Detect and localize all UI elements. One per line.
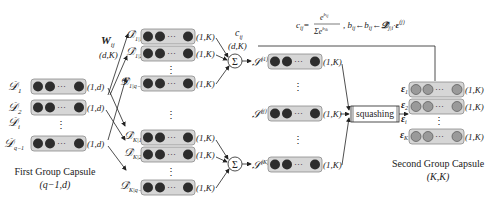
capsule-routing-diagram: 𝒟1 ··· (1,d) 𝒟2 ··· (1,d) 𝒟i ⋮ 𝒟q−1 ··· … bbox=[0, 0, 496, 207]
svg-text:(1,d): (1,d) bbox=[87, 139, 104, 149]
svg-text:···: ··· bbox=[167, 132, 176, 142]
svg-text:⋮: ⋮ bbox=[434, 115, 444, 126]
second-group-capsule: ε1 ··· (1,K) ε2 ··· (1,K) εi ⋮ εK ··· (1… bbox=[392, 82, 485, 183]
weighted-sum-1: 𝒮(1) ··· (1,K) bbox=[252, 54, 342, 69]
first-group-shape: (q−1,d) bbox=[40, 179, 72, 191]
first-group-title: First Group Capsule bbox=[14, 166, 96, 177]
svg-text:𝒟̂K|1: 𝒟̂K|1 bbox=[124, 129, 142, 143]
first-group-row-q-1: 𝒟q−1 ··· (1,d) bbox=[4, 136, 104, 151]
svg-text:⋮: ⋮ bbox=[166, 166, 176, 177]
svg-text:, bij←bij←𝒟̂j|i·ε(j): , bij←bij←𝒟̂j|i·ε(j) bbox=[343, 19, 405, 31]
sigma-icon: Σ bbox=[232, 56, 238, 67]
second-group-row-2: ε2 ··· (1,K) bbox=[401, 99, 484, 114]
prediction-row-k-2: 𝒟̂K|2 ··· (1,K) bbox=[124, 146, 215, 162]
vdots: ⋮ bbox=[56, 119, 66, 130]
svg-text:𝒮(K): 𝒮(K) bbox=[252, 159, 269, 171]
svg-text:···: ··· bbox=[57, 138, 66, 148]
weight-shape: (d,K) bbox=[99, 50, 118, 60]
weighted-sum-k: 𝒮(K) ··· (1,K) bbox=[252, 157, 342, 172]
svg-text:𝒮(1): 𝒮(1) bbox=[252, 56, 268, 68]
first-group-row-1: 𝒟1 ··· (1,d) bbox=[8, 79, 104, 95]
di-label: 𝒟i bbox=[8, 115, 20, 131]
sum-node-bottom: Σ bbox=[216, 140, 251, 188]
first-group-row-2: 𝒟2 ··· (1,d) bbox=[8, 100, 104, 116]
second-group-row-1: ε1 ··· (1,K) bbox=[401, 82, 484, 97]
svg-text:···: ··· bbox=[167, 78, 176, 88]
svg-text:···: ··· bbox=[435, 101, 444, 111]
d1-dim: (1,d) bbox=[87, 82, 104, 92]
weight-label: Wij bbox=[101, 34, 115, 49]
prediction-row-1-1: 𝒟̂1|1 ··· (1,K) bbox=[126, 28, 215, 44]
prediction-cluster-bottom: 𝒟̂K|1 ··· (1,K) 𝒟̂K|2 ··· (1,K) ⋮ 𝒟̂K|q−… bbox=[120, 129, 215, 195]
svg-text:εK: εK bbox=[400, 129, 409, 141]
svg-text:(1,K): (1,K) bbox=[465, 102, 484, 112]
coupling-label: cij bbox=[235, 27, 243, 40]
svg-text:(1,K): (1,K) bbox=[323, 57, 342, 67]
svg-text:···: ··· bbox=[294, 56, 303, 66]
svg-text:(1,K): (1,K) bbox=[465, 132, 484, 142]
svg-text:ε2: ε2 bbox=[401, 99, 408, 111]
svg-text:𝒟q−1: 𝒟q−1 bbox=[4, 136, 24, 151]
svg-text:Σebik: Σebik bbox=[313, 26, 328, 36]
coupling-shape: (d,K) bbox=[228, 41, 247, 51]
second-group-shape: (K,K) bbox=[427, 171, 450, 183]
prediction-row-1-2: 𝒟̂1|2 ··· (1,K) bbox=[126, 45, 215, 61]
svg-text:(1,K): (1,K) bbox=[196, 79, 215, 89]
svg-text:𝒟̂1|1: 𝒟̂1|1 bbox=[126, 28, 143, 42]
svg-text:···: ··· bbox=[435, 131, 444, 141]
prediction-cluster-top: 𝒟̂1|1 ··· (1,K) 𝒟̂1|2 ··· (1,K) ⋮ 𝒟̂1|q−… bbox=[120, 28, 215, 91]
routing-formula: cij= ebij Σebik , bij←bij←𝒟̂j|i·ε(j) c_i… bbox=[296, 12, 405, 36]
svg-text:···: ··· bbox=[294, 159, 303, 169]
svg-text:···: ··· bbox=[167, 31, 176, 41]
second-group-row-k: εK ··· (1,K) bbox=[400, 129, 484, 144]
prediction-row-1-q-1: 𝒟̂1|q−1 ··· (1,K) bbox=[120, 75, 215, 91]
svg-text:···: ··· bbox=[435, 84, 444, 94]
first-group-capsule: 𝒟1 ··· (1,d) 𝒟2 ··· (1,d) 𝒟i ⋮ 𝒟q−1 ··· … bbox=[4, 79, 104, 191]
svg-text:···: ··· bbox=[167, 182, 176, 192]
svg-text:(1,K): (1,K) bbox=[196, 32, 215, 42]
svg-text:cij=: cij= bbox=[296, 20, 309, 31]
svg-text:⋮: ⋮ bbox=[166, 109, 176, 120]
svg-text:(1,d): (1,d) bbox=[87, 103, 104, 113]
svg-text:(1,K): (1,K) bbox=[465, 85, 484, 95]
svg-text:⋮: ⋮ bbox=[293, 134, 303, 145]
ellipsis: ··· bbox=[57, 81, 66, 91]
svg-text:···: ··· bbox=[294, 108, 303, 118]
svg-text:𝒮(j): 𝒮(j) bbox=[252, 108, 267, 120]
svg-text:(1,K): (1,K) bbox=[196, 183, 215, 193]
svg-text:ebij: ebij bbox=[320, 12, 329, 22]
svg-text:⋮: ⋮ bbox=[293, 81, 303, 92]
weighted-sum-j: 𝒮(j) ··· (1,K) bbox=[252, 106, 342, 121]
svg-text:𝒟2: 𝒟2 bbox=[8, 100, 22, 116]
svg-text:𝒟̂1|q−1: 𝒟̂1|q−1 bbox=[120, 75, 144, 89]
svg-text:···: ··· bbox=[167, 48, 176, 58]
svg-text:(1,K): (1,K) bbox=[323, 160, 342, 170]
svg-text:···: ··· bbox=[167, 149, 176, 159]
squashing-block: squashing bbox=[351, 106, 408, 122]
svg-text:(1,K): (1,K) bbox=[196, 49, 215, 59]
second-group-title: Second Group Capsule bbox=[392, 158, 485, 169]
svg-text:𝒟̂K|2: 𝒟̂K|2 bbox=[124, 146, 142, 160]
sigma-icon: Σ bbox=[232, 159, 238, 170]
svg-text:𝒟̂1|2: 𝒟̂1|2 bbox=[126, 45, 143, 59]
svg-text:(1,K): (1,K) bbox=[323, 109, 342, 119]
svg-text:⋮: ⋮ bbox=[166, 64, 176, 75]
svg-text:ε1: ε1 bbox=[401, 83, 408, 95]
svg-text:···: ··· bbox=[57, 102, 66, 112]
svg-text:(1,K): (1,K) bbox=[196, 133, 215, 143]
d1-label: 𝒟1 bbox=[8, 79, 22, 95]
prediction-row-k-1: 𝒟̂K|1 ··· (1,K) bbox=[124, 129, 215, 145]
squashing-label: squashing bbox=[356, 109, 394, 119]
prediction-row-k-q-1: 𝒟̂K|q−1 ··· (1,K) bbox=[120, 179, 215, 195]
svg-text:εi: εi bbox=[401, 113, 407, 125]
svg-text:(1,K): (1,K) bbox=[196, 150, 215, 160]
